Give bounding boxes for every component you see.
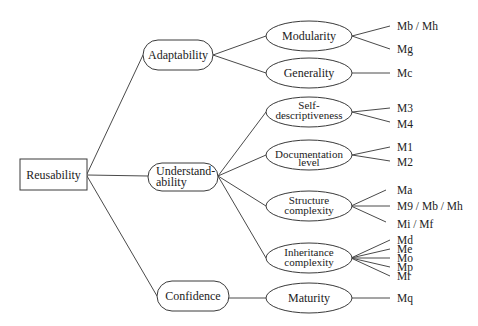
criterion-node-inheritance-complexity: Inheritance complexity: [266, 243, 352, 273]
criterion-node-structure-complexity: Structure complexity: [266, 191, 352, 221]
metric-mc: Mc: [397, 67, 412, 79]
factor-node-confidence: Confidence: [157, 281, 229, 311]
edge-reusability-adaptability: [87, 55, 143, 174]
metric-m3: M3: [397, 102, 413, 114]
metric-mq: Mq: [397, 292, 413, 305]
metric-mi-mf: Mi / Mf: [397, 218, 434, 230]
edge-understandability-structure: [218, 176, 266, 206]
edge-reusability-understandability: [87, 175, 148, 176]
factor-node-understandability: Understand- ability: [148, 163, 218, 191]
metric-m4: M4: [397, 118, 413, 130]
metric-labels: Mb / Mh Mg Mc M3 M4 M1 M2 Ma M9 / Mb / M…: [397, 20, 463, 305]
factor-edges: [213, 36, 266, 298]
root-node-reusability: Reusability: [20, 159, 87, 190]
svg-text:complexity: complexity: [284, 256, 334, 268]
criterion-node-modularity: Modularity: [266, 21, 352, 51]
svg-text:complexity: complexity: [284, 204, 334, 216]
svg-text:descriptiveness: descriptiveness: [275, 109, 342, 121]
factor-node-adaptability: Adaptability: [143, 40, 213, 70]
criterion-node-maturity: Maturity: [266, 283, 352, 313]
svg-text:Generality: Generality: [284, 66, 335, 80]
metric-m1: M1: [397, 141, 413, 153]
criterion-node-documentation-level: Documentation level: [266, 140, 352, 170]
metric-mb-mh: Mb / Mh: [397, 20, 438, 32]
reusability-tree-diagram: Reusability Adaptability Understand- abi…: [0, 0, 478, 326]
svg-text:ability: ability: [156, 175, 187, 189]
edge-reusability-confidence: [87, 176, 157, 296]
metric-ma: Ma: [397, 184, 412, 196]
criterion-node-generality: Generality: [266, 58, 352, 88]
svg-text:level: level: [298, 156, 319, 168]
svg-text:Modularity: Modularity: [282, 29, 336, 43]
root-edges: [87, 55, 157, 296]
metric-edges: [351, 26, 390, 298]
edge-understandability-documentation: [218, 155, 266, 176]
svg-text:Adaptability: Adaptability: [148, 48, 208, 62]
svg-text:Maturity: Maturity: [288, 291, 330, 305]
svg-text:Confidence: Confidence: [165, 289, 220, 303]
criterion-node-self-descriptiveness: Self- descriptiveness: [266, 97, 352, 127]
root-label: Reusability: [26, 168, 81, 182]
edge-adaptability-generality: [213, 55, 266, 73]
edge-adaptability-modularity: [213, 36, 266, 55]
metric-mr: Mr: [397, 270, 411, 282]
metric-m2: M2: [397, 156, 413, 168]
metric-mg: Mg: [397, 43, 413, 56]
edge-understandability-inheritance: [218, 176, 266, 258]
edge-understandability-selfdesc: [218, 112, 266, 176]
metric-m9-mb-mh: M9 / Mb / Mh: [397, 200, 463, 212]
